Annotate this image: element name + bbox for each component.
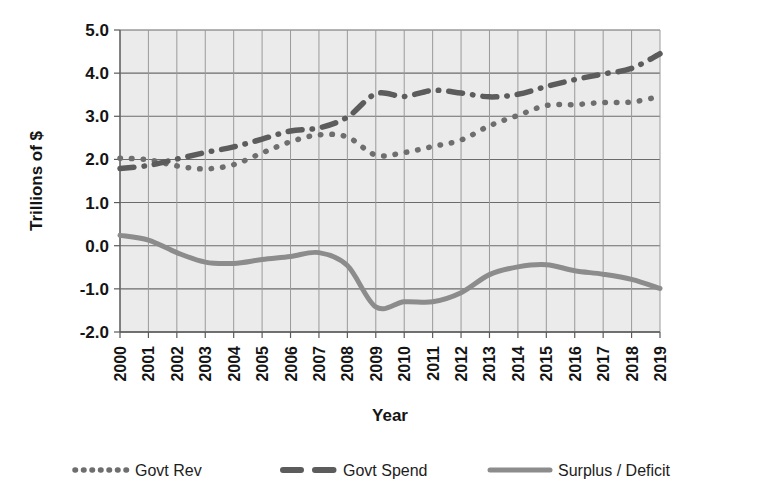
legend-item-govt-rev[interactable]: Govt Rev xyxy=(75,462,202,479)
y-axis-title: Trillions of $ xyxy=(27,130,46,231)
x-tick-label: 2008 xyxy=(339,346,356,382)
y-tick-label: 1.0 xyxy=(85,194,109,213)
x-tick-label: 2010 xyxy=(396,346,413,382)
plot-background xyxy=(120,30,660,332)
x-tick-label: 2011 xyxy=(425,346,442,381)
x-tick-label: 2000 xyxy=(112,346,129,382)
y-tick-label: 4.0 xyxy=(85,64,109,83)
chart-legend: Govt RevGovt SpendSurplus / Deficit xyxy=(75,462,671,479)
x-tick-label: 2016 xyxy=(567,346,584,382)
y-tick-label: -1.0 xyxy=(80,280,109,299)
x-tick-label: 2012 xyxy=(453,346,470,382)
legend-item-govt-spend[interactable]: Govt Spend xyxy=(283,462,428,479)
y-tick-label: 5.0 xyxy=(85,21,109,40)
government-finances-line-chart: 5.04.03.02.01.00.0-1.0-2.0 2000200120022… xyxy=(0,0,765,502)
x-tick-label: 2009 xyxy=(368,346,385,382)
x-tick-label: 2007 xyxy=(311,346,328,382)
x-tick-label: 2018 xyxy=(624,346,641,382)
x-tick-label: 2013 xyxy=(481,346,498,382)
legend-label: Govt Rev xyxy=(135,462,202,479)
x-axis-title: Year xyxy=(372,406,408,425)
chart-container: 5.04.03.02.01.00.0-1.0-2.0 2000200120022… xyxy=(0,0,765,502)
legend-label: Surplus / Deficit xyxy=(558,462,671,479)
x-tick-label: 2003 xyxy=(197,346,214,382)
x-tick-label: 2001 xyxy=(140,346,157,382)
x-tick-label: 2006 xyxy=(283,346,300,382)
plot-area-background xyxy=(120,30,660,332)
legend-item-surplus-deficit[interactable]: Surplus / Deficit xyxy=(490,462,671,479)
x-tick-label: 2005 xyxy=(254,346,271,382)
x-tick-label: 2014 xyxy=(510,346,527,382)
x-tick-label: 2002 xyxy=(169,346,186,382)
y-tick-label: 2.0 xyxy=(85,150,109,169)
x-tick-label: 2015 xyxy=(538,346,555,382)
y-tick-label: 0.0 xyxy=(85,237,109,256)
x-axis-tick-labels: 2000200120022003200420052006200720082009… xyxy=(112,346,669,382)
x-tick-label: 2017 xyxy=(595,346,612,382)
y-axis-tick-labels: 5.04.03.02.01.00.0-1.0-2.0 xyxy=(80,21,109,342)
x-tick-label: 2004 xyxy=(226,346,243,382)
y-tick-label: -2.0 xyxy=(80,323,109,342)
y-tick-label: 3.0 xyxy=(85,107,109,126)
legend-label: Govt Spend xyxy=(343,462,428,479)
x-tick-label: 2019 xyxy=(652,346,669,382)
